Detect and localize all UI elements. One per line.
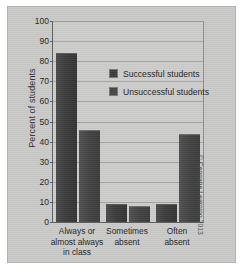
y-axis-tick-label: 50 [40,117,49,127]
x-axis-label-line: in class [49,247,105,258]
bar-group [156,21,200,222]
x-axis-label-line: Sometimes [99,226,155,237]
x-axis-label-line: Always or [49,226,105,237]
legend-item-unsuccessful: Unsuccessful students [109,84,207,99]
bar-series-container [53,21,203,222]
x-axis-label: Always oralmost alwaysin class [49,226,105,258]
legend-swatch-icon-successful [109,69,118,78]
y-axis-tick-label: 80 [40,56,49,66]
x-axis-labels: Always oralmost alwaysin classSometimesa… [52,226,204,272]
figure: Percent of students 10090807060504030201… [0,0,252,275]
copyright-credit: © Cengage Learning 2013 [197,155,204,265]
bar-fill [129,206,150,222]
x-axis-label-line: almost always [49,237,105,248]
y-axis-tick-label: 60 [40,96,49,106]
y-axis-tick-label: 90 [40,36,49,46]
bar-fill [56,53,77,222]
plot-area: 1009080706050403020100 Successful studen… [52,21,204,223]
bar-fill [79,130,100,222]
legend: Successful students Unsuccessful student… [109,66,207,102]
bar-successful [106,204,127,222]
bar-fill [156,204,177,222]
y-axis-tick-label: 30 [40,157,49,167]
bar-successful [156,204,177,222]
bar-fill [106,204,127,222]
y-axis-tick-label: 100 [35,16,49,26]
y-axis-tick-mark [50,222,53,223]
bar-unsuccessful [129,206,150,222]
legend-label-unsuccessful: Unsuccessful students [123,87,209,97]
bar-group [106,21,150,222]
y-axis-tick-label: 20 [40,177,49,187]
y-axis-tick-label: 40 [40,137,49,147]
legend-swatch-icon-unsuccessful [109,87,118,96]
x-axis-label-line: absent [99,237,155,248]
y-axis-title: Percent of students [27,38,37,178]
y-axis-tick-label: 10 [40,197,49,207]
y-axis-tick-label: 70 [40,76,49,86]
legend-label-successful: Successful students [123,69,199,79]
bar-group [56,21,100,222]
legend-item-successful: Successful students [109,66,207,81]
bar-unsuccessful [79,130,100,222]
chart-panel: Percent of students 10090807060504030201… [7,6,236,263]
x-axis-label: Sometimesabsent [99,226,155,247]
bar-successful [56,53,77,222]
